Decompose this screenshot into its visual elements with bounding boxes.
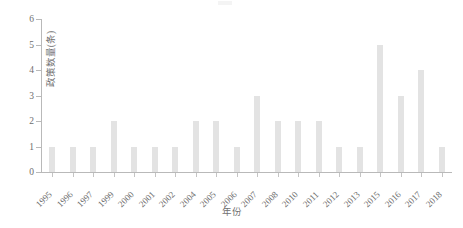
x-tick-mark (339, 173, 340, 177)
y-tick-label: 6 (20, 14, 34, 24)
bar (131, 147, 137, 173)
x-tick-mark (442, 173, 443, 177)
x-tick-mark (93, 173, 94, 177)
x-tick-mark (421, 173, 422, 177)
x-tick-mark (257, 173, 258, 177)
x-axis-title: 年份 (0, 206, 463, 218)
y-tick-mark (36, 172, 41, 173)
y-tick-mark (36, 45, 41, 46)
x-tick-mark (216, 173, 217, 177)
x-tick-mark (319, 173, 320, 177)
y-tick-mark (36, 147, 41, 148)
bar (398, 96, 404, 173)
x-tick-mark (278, 173, 279, 177)
x-tick-mark (298, 173, 299, 177)
bar (418, 70, 424, 172)
x-tick-mark (196, 173, 197, 177)
y-tick-mark (36, 70, 41, 71)
y-tick-mark (36, 121, 41, 122)
x-tick-mark (401, 173, 402, 177)
x-tick-mark (114, 173, 115, 177)
y-tick-label: 2 (20, 116, 34, 126)
plot-area (42, 19, 452, 172)
y-tick-label: 4 (20, 65, 34, 75)
x-tick-mark (134, 173, 135, 177)
bar (49, 147, 55, 173)
bar-chart-figure: 政策数量(条) 0123456 199519961997199920002001… (0, 0, 463, 228)
bar (152, 147, 158, 173)
x-tick-mark (360, 173, 361, 177)
y-tick-label: 3 (20, 91, 34, 101)
bar (295, 121, 301, 172)
bar (172, 147, 178, 173)
bar (377, 45, 383, 173)
y-tick-label: 0 (20, 167, 34, 177)
x-tick-mark (52, 173, 53, 177)
x-tick-mark (155, 173, 156, 177)
x-tick-mark (73, 173, 74, 177)
bar (193, 121, 199, 172)
bar (439, 147, 445, 173)
bar (213, 121, 219, 172)
x-tick-mark (175, 173, 176, 177)
bar (357, 147, 363, 173)
x-axis-line (41, 172, 452, 173)
x-tick-mark (380, 173, 381, 177)
y-tick-label: 1 (20, 142, 34, 152)
y-tick-label: 5 (20, 40, 34, 50)
x-tick-mark (237, 173, 238, 177)
bar (275, 121, 281, 172)
bar (316, 121, 322, 172)
scan-artifact (218, 1, 232, 5)
bar (70, 147, 76, 173)
y-tick-mark (36, 19, 41, 20)
bar (111, 121, 117, 172)
bar (90, 147, 96, 173)
bar (336, 147, 342, 173)
bar (254, 96, 260, 173)
bar (234, 147, 240, 173)
y-tick-mark (36, 96, 41, 97)
